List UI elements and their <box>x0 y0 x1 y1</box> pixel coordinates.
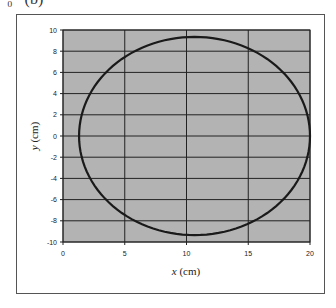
x-axis-label: x (cm) <box>171 265 201 278</box>
x-axis-ticks: 05101520 <box>61 250 314 257</box>
x-tick-label: 20 <box>306 250 314 257</box>
y-tick-label: -2 <box>51 154 57 161</box>
x-tick-label: 5 <box>123 250 127 257</box>
y-axis-label: y (cm) <box>28 121 41 151</box>
y-tick-label: -6 <box>51 196 57 203</box>
y-tick-label: -10 <box>47 239 57 246</box>
y-tick-label: 2 <box>53 111 57 118</box>
y-tick-label: 0 <box>53 133 57 140</box>
chart: 1086420-2-4-6-8-10 05101520 x (cm) y (cm… <box>0 0 336 308</box>
y-tick-label: 6 <box>53 69 57 76</box>
y-tick-label: 4 <box>53 90 57 97</box>
x-tick-label: 10 <box>183 250 191 257</box>
y-axis-ticks: 1086420-2-4-6-8-10 <box>47 27 57 246</box>
y-tick-label: -8 <box>51 217 57 224</box>
y-tick-label: -4 <box>51 175 57 182</box>
x-tick-label: 15 <box>244 250 252 257</box>
x-tick-label: 0 <box>61 250 65 257</box>
y-tick-label: 10 <box>49 27 57 34</box>
y-tick-label: 8 <box>53 48 57 55</box>
